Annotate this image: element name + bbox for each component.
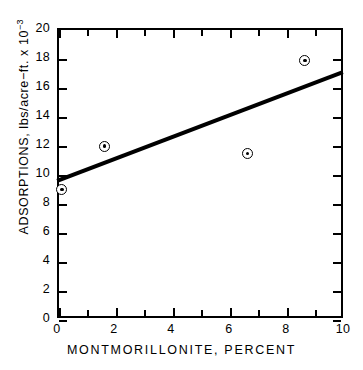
plot-area — [57, 28, 343, 318]
x-tick-label-10: 10 — [328, 322, 358, 336]
y-tick-label-12: 12 — [20, 137, 50, 151]
x-tick-label-2: 2 — [99, 322, 129, 336]
x-tick-label-4: 4 — [156, 322, 186, 336]
y-tick-label-20: 20 — [20, 21, 50, 35]
y-tick-right-0 — [333, 320, 341, 322]
data-point — [99, 141, 110, 152]
x-tick-label-8: 8 — [271, 322, 301, 336]
y-tick-label-6: 6 — [20, 224, 50, 238]
y-tick-label-10: 10 — [20, 166, 50, 180]
y-tick-label-14: 14 — [20, 108, 50, 122]
plot-inner — [59, 30, 341, 316]
y-tick-label-2: 2 — [20, 282, 50, 296]
y-tick-left-0 — [59, 320, 67, 322]
y-axis-title-container: ADSORPTIONS, lbs/acre−ft. x 10−3 — [14, 0, 34, 257]
y-tick-label-4: 4 — [20, 253, 50, 267]
y-tick-label-18: 18 — [20, 50, 50, 64]
y-tick-label-8: 8 — [20, 195, 50, 209]
trend-line — [59, 30, 341, 316]
y-tick-label-16: 16 — [20, 79, 50, 93]
x-tick-label-6: 6 — [214, 322, 244, 336]
scatter-chart-figure: ADSORPTIONS, lbs/acre−ft. x 10−3 0 2 4 6… — [0, 0, 363, 370]
data-point — [242, 148, 253, 159]
x-tick-label-0: 0 — [42, 322, 72, 336]
x-axis-title: MONTMORILLONITE, PERCENT — [0, 343, 363, 357]
